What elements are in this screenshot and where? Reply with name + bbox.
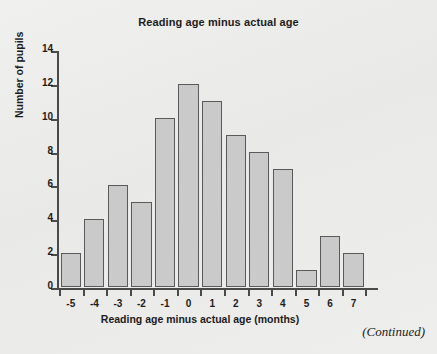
y-tick-label: 12 — [42, 77, 53, 88]
y-tick-label: 0 — [47, 280, 53, 291]
x-tick-mark — [248, 290, 250, 296]
bar — [155, 118, 175, 287]
x-tick-mark — [106, 290, 108, 296]
y-tick-label: 14 — [42, 43, 53, 54]
x-tick-label: 7 — [339, 298, 369, 309]
bar — [131, 202, 151, 287]
x-tick-mark — [59, 290, 61, 296]
y-tick-label: 2 — [47, 246, 53, 257]
bar — [178, 84, 198, 287]
bar — [226, 135, 246, 287]
bar — [202, 101, 222, 287]
plot-area: 02468101214 -5-4-3-2-101234567 — [57, 51, 378, 289]
x-axis-label: Reading age minus actual age (months) — [0, 313, 400, 325]
y-tick-label: 8 — [47, 145, 53, 156]
bar — [61, 253, 81, 287]
x-tick-mark — [342, 290, 344, 296]
x-tick-mark — [365, 290, 367, 296]
x-tick-mark — [271, 290, 273, 296]
y-axis-line — [57, 51, 59, 290]
chart-title: Reading age minus actual age — [0, 16, 437, 28]
bar — [343, 253, 363, 287]
bar — [296, 270, 316, 287]
y-tick-label: 10 — [42, 111, 53, 122]
x-tick-mark — [318, 290, 320, 296]
bar — [108, 185, 128, 287]
x-tick-mark — [177, 290, 179, 296]
bar — [320, 236, 340, 287]
bar — [84, 219, 104, 287]
y-axis-label: Number of pupils — [13, 32, 25, 118]
continued-note: (Continued) — [362, 324, 425, 340]
x-tick-mark — [130, 290, 132, 296]
x-tick-mark — [83, 290, 85, 296]
y-tick-label: 6 — [47, 178, 53, 189]
bar — [249, 152, 269, 287]
x-tick-mark — [200, 290, 202, 296]
y-tick-label: 4 — [47, 212, 53, 223]
bar — [273, 169, 293, 288]
x-tick-mark — [224, 290, 226, 296]
x-tick-mark — [153, 290, 155, 296]
x-tick-mark — [295, 290, 297, 296]
figure-canvas: Reading age minus actual age 02468101214… — [0, 0, 437, 354]
